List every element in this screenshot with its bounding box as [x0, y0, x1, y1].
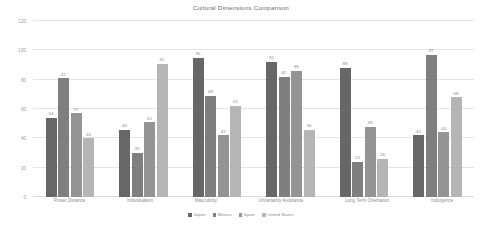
bar-value-label: 88 [343, 62, 348, 66]
y-tick-label-120: 120 [18, 19, 26, 24]
legend-swatch-icon [188, 213, 192, 217]
bar-slot: 88 [340, 21, 351, 197]
x-tick-label: Long Term Orientation [345, 199, 389, 204]
x-tick-label: Individualism [127, 199, 153, 204]
bar-slot: 97 [426, 21, 437, 197]
bar[interactable] [352, 162, 363, 197]
bar[interactable] [451, 97, 462, 197]
bar-value-label: 26 [380, 153, 385, 157]
bar-value-label: 46 [122, 124, 127, 128]
legend-swatch-icon [262, 213, 266, 217]
bar[interactable] [58, 78, 69, 197]
bar-group: 54815740 [46, 21, 95, 197]
x-tick-label: Power Distance [54, 199, 86, 204]
bar[interactable] [119, 130, 130, 197]
bar-value-label: 42 [221, 130, 226, 134]
bar-value-label: 42 [416, 130, 421, 134]
bar-value-label: 30 [135, 147, 140, 151]
bar[interactable] [193, 58, 204, 197]
bar-value-label: 91 [160, 58, 165, 62]
bar-slot: 42 [218, 21, 229, 197]
y-tick-label-40: 40 [21, 136, 26, 141]
bar-slot: 48 [365, 21, 376, 197]
legend-item[interactable]: Japan [188, 213, 205, 217]
bar-slot: 95 [193, 21, 204, 197]
bar[interactable] [377, 159, 388, 197]
bar[interactable] [413, 135, 424, 197]
legend-item[interactable]: United States [262, 213, 294, 217]
bar-slot: 62 [230, 21, 241, 197]
bar[interactable] [365, 127, 376, 197]
bar[interactable] [340, 68, 351, 197]
legend-item[interactable]: Mexico [213, 213, 232, 217]
y-tick-label-20: 20 [21, 165, 26, 170]
bar[interactable] [291, 71, 302, 197]
chart-container: Cultural Dimensions Comparison 020406080… [0, 0, 482, 231]
bar-slot: 42 [413, 21, 424, 197]
bar[interactable] [132, 153, 143, 197]
x-tick-label: Uncertainty Avoidance [259, 199, 304, 204]
bar-group: 92828646 [266, 21, 315, 197]
bar[interactable] [438, 132, 449, 197]
bar-group: 88244826 [340, 21, 389, 197]
bar-value-label: 48 [368, 121, 373, 125]
bar[interactable] [218, 135, 229, 197]
bar-slot: 26 [377, 21, 388, 197]
legend-label: United States [267, 213, 293, 217]
bar-value-label: 69 [208, 90, 213, 94]
legend-swatch-icon [213, 213, 217, 217]
bar[interactable] [144, 122, 155, 197]
bar-slot: 92 [266, 21, 277, 197]
bar-slot: 81 [58, 21, 69, 197]
bar-slot: 86 [291, 21, 302, 197]
bar-slot: 69 [205, 21, 216, 197]
bar-value-label: 24 [355, 156, 360, 160]
bar[interactable] [426, 55, 437, 197]
x-tick-label: Masculinity [195, 199, 217, 204]
legend-label: Mexico [218, 213, 232, 217]
bar[interactable] [205, 96, 216, 197]
bar-value-label: 62 [233, 100, 238, 104]
bar-slot: 91 [157, 21, 168, 197]
bar[interactable] [266, 62, 277, 197]
bar[interactable] [83, 138, 94, 197]
bar-slot: 46 [119, 21, 130, 197]
y-tick-label-0: 0 [23, 195, 26, 200]
y-tick-label-60: 60 [21, 107, 26, 112]
bar[interactable] [304, 130, 315, 197]
bar[interactable] [46, 118, 57, 197]
bar-value-label: 92 [269, 56, 274, 60]
plot-area: 5481574046305191956942629282864688244826… [33, 21, 474, 197]
bar-slot: 24 [352, 21, 363, 197]
bar-value-label: 95 [196, 52, 201, 56]
bar[interactable] [279, 77, 290, 197]
bar[interactable] [71, 113, 82, 197]
bar-value-label: 97 [429, 49, 434, 53]
chart-legend: JapanMexicoSpainUnited States [0, 213, 482, 217]
legend-item[interactable]: Spain [239, 213, 255, 217]
legend-label: Japan [194, 213, 206, 217]
bar-value-label: 68 [454, 92, 459, 96]
bar-slot: 54 [46, 21, 57, 197]
bar-group: 42974468 [413, 21, 462, 197]
legend-label: Spain [244, 213, 255, 217]
bar-value-label: 44 [441, 127, 446, 131]
bar-slot: 30 [132, 21, 143, 197]
bar-slot: 44 [438, 21, 449, 197]
bar-slot: 51 [144, 21, 155, 197]
chart-title: Cultural Dimensions Comparison [0, 4, 482, 11]
bar-slot: 82 [279, 21, 290, 197]
x-axis-tick-labels: Power DistanceIndividualismMasculinityUn… [33, 199, 474, 213]
bar-slot: 68 [451, 21, 462, 197]
bar-value-label: 57 [74, 108, 79, 112]
bar-slot: 40 [83, 21, 94, 197]
y-tick-label-80: 80 [21, 77, 26, 82]
legend-swatch-icon [239, 213, 243, 217]
bar-slot: 57 [71, 21, 82, 197]
bar-group: 46305191 [119, 21, 168, 197]
bar-value-label: 81 [61, 73, 66, 77]
bar-value-label: 40 [86, 133, 91, 137]
bar[interactable] [230, 106, 241, 197]
bar[interactable] [157, 64, 168, 197]
x-tick-label: Indulgence [431, 199, 453, 204]
